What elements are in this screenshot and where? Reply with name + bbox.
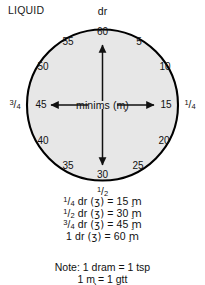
dram-symbol: (ʒ) <box>90 219 104 230</box>
notes-block: Note: 1 dram = 1 tsp 1 m̧ = 1 gtt <box>0 261 205 285</box>
dial-tick-40: 40 <box>37 136 48 146</box>
equation-unit: dr <box>78 195 88 207</box>
equation-row: 1/2 dr (ʒ) = 30 m̧ <box>0 208 205 220</box>
equation-unit: dr <box>78 218 88 230</box>
equation-row: 1/4 dr (ʒ) = 15 m̧ <box>0 196 205 208</box>
dial-tick-45: 45 <box>35 100 46 110</box>
dial-tick-50: 50 <box>37 62 48 72</box>
note-line: Note: 1 dram = 1 tsp <box>0 261 205 273</box>
dial-diagram: dr minims (m̧) 60 5 10 15 20 25 30 35 40… <box>0 0 205 205</box>
fraction-quarter-right: 1/4 <box>184 99 195 110</box>
minim-symbol: m̧ <box>129 230 139 242</box>
equals-sign: = <box>107 218 113 230</box>
equation-unit: dr <box>78 207 88 219</box>
dial-center-label: minims (m̧) <box>76 99 129 111</box>
dial-tick-30: 30 <box>97 170 108 180</box>
dial-tick-5: 5 <box>136 37 142 47</box>
equals-sign: = <box>107 207 113 219</box>
dial-tick-35: 35 <box>62 161 73 171</box>
dial-tick-15: 15 <box>160 100 171 110</box>
equation-amount: 45 <box>116 218 128 230</box>
dial-unit-label: dr <box>98 5 107 17</box>
dial-tick-20: 20 <box>158 136 169 146</box>
dial-tick-25: 25 <box>132 161 143 171</box>
minim-symbol: m̧ <box>131 207 141 219</box>
fraction-three-quarter-left: 3/4 <box>9 99 20 110</box>
minim-symbol: m̧ <box>131 195 141 207</box>
equation-amount: 60 <box>114 230 126 242</box>
dial-tick-55: 55 <box>62 37 73 47</box>
equation-list: 1/4 dr (ʒ) = 15 m̧ 1/2 dr (ʒ) = 30 m̧ 3/… <box>0 196 205 242</box>
dram-symbol: (ʒ) <box>88 231 102 242</box>
dial-tick-60: 60 <box>97 27 108 37</box>
note-line: 1 m̧ = 1 gtt <box>0 273 205 285</box>
equation-amount: 15 <box>116 195 128 207</box>
equals-sign: = <box>104 230 110 242</box>
dial-tick-10: 10 <box>159 62 170 72</box>
minim-symbol: m̧ <box>131 218 141 230</box>
dram-symbol: (ʒ) <box>90 196 104 207</box>
equation-row: 1 dr (ʒ) = 60 m̧ <box>0 231 205 243</box>
equation-amount: 30 <box>116 207 128 219</box>
equation-unit: dr <box>75 230 85 242</box>
equals-sign: = <box>107 195 113 207</box>
dram-symbol: (ʒ) <box>90 208 104 219</box>
equation-whole: 1 <box>66 230 72 242</box>
